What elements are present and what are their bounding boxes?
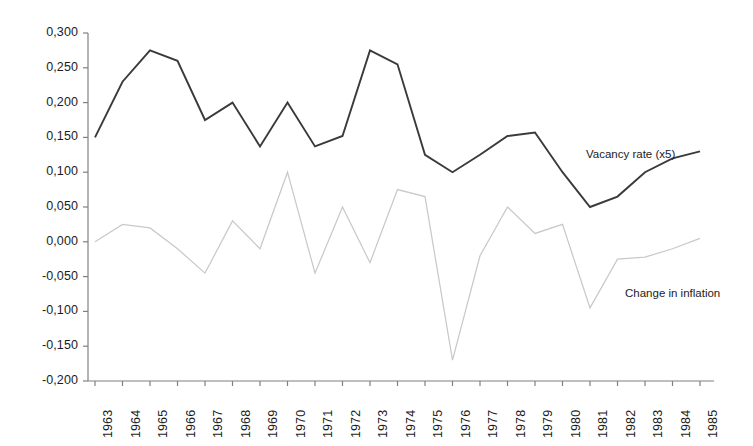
x-axis-tick-label: 1977	[486, 410, 500, 438]
x-axis-tick-label: 1975	[431, 410, 445, 438]
x-axis-tick-label: 1974	[404, 410, 418, 438]
x-axis-tick-label: 1981	[596, 410, 610, 438]
x-axis-tick-label: 1970	[294, 410, 308, 438]
series-label-change-in-inflation: Change in inflation	[625, 287, 720, 299]
x-axis-tick-label: 1976	[459, 410, 473, 438]
y-axis-tick-label: -0,050	[0, 269, 78, 283]
x-axis-tick-label: 1985	[706, 410, 720, 438]
x-axis-tick-label: 1979	[541, 410, 555, 438]
y-axis-tick-label: 0,300	[0, 25, 78, 39]
y-axis-tick-label: 0,150	[0, 129, 78, 143]
x-axis-tick-label: 1973	[376, 410, 390, 438]
y-axis-tick-label: 0,100	[0, 164, 78, 178]
x-axis-tick-label: 1980	[569, 410, 583, 438]
x-axis-tick-label: 1964	[129, 410, 143, 438]
x-axis-tick-label: 1965	[156, 410, 170, 438]
x-axis-tick-label: 1978	[514, 410, 528, 438]
y-axis-tick-label: -0,100	[0, 303, 78, 317]
x-axis-tick-label: 1984	[679, 410, 693, 438]
y-axis-tick-label: -0,200	[0, 373, 78, 387]
x-axis-tick-label: 1983	[651, 410, 665, 438]
x-axis-tick-label: 1966	[184, 410, 198, 438]
chart-container: 0,3000,2500,2000,1500,1000,0500,000-0,05…	[0, 0, 753, 446]
x-axis-tick-label: 1972	[349, 410, 363, 438]
x-axis-tick-label: 1963	[101, 410, 115, 438]
x-axis-tick-label: 1967	[211, 410, 225, 438]
series-label-vacancy-rate: Vacancy rate (x5)	[586, 148, 675, 160]
x-axis-tick-label: 1969	[266, 410, 280, 438]
y-axis-tick-label: 0,250	[0, 60, 78, 74]
series-line-vacancy-rate	[95, 50, 700, 207]
y-axis-tick-label: -0,150	[0, 338, 78, 352]
plot-area	[0, 0, 753, 446]
x-axis-tick-label: 1982	[624, 410, 638, 438]
y-axis-tick-label: 0,000	[0, 234, 78, 248]
y-axis-tick-label: 0,200	[0, 95, 78, 109]
x-axis-tick-label: 1971	[321, 410, 335, 438]
x-axis-tick-label: 1968	[239, 410, 253, 438]
y-axis-tick-label: 0,050	[0, 199, 78, 213]
